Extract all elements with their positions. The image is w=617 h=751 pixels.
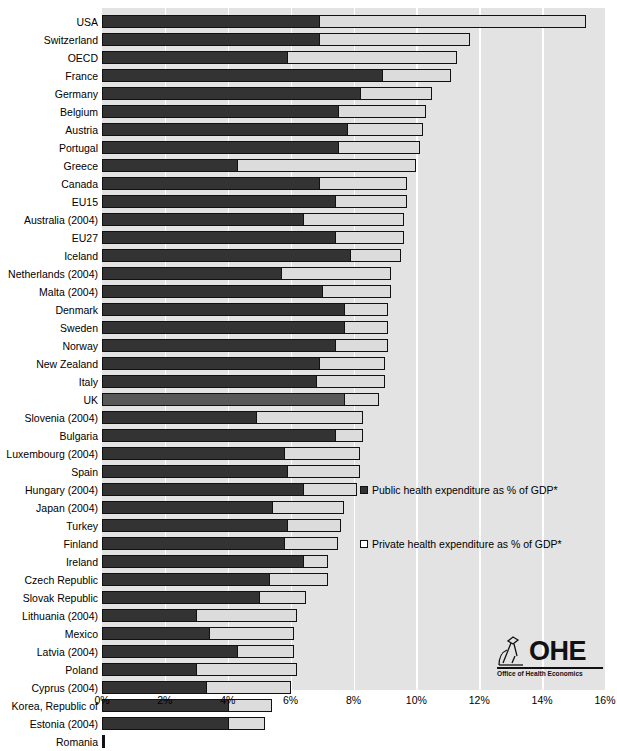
stacked-bar xyxy=(102,357,385,370)
category-label: Estonia (2004) xyxy=(0,715,98,733)
bar-segment-public xyxy=(102,285,322,298)
bar-segment-private xyxy=(319,33,470,46)
bar-segment-public xyxy=(102,249,350,262)
bar-segment-private xyxy=(272,501,344,514)
bar-segment-private xyxy=(303,213,404,226)
category-label: Portugal xyxy=(0,139,98,157)
bar-segment-private xyxy=(284,537,337,550)
logo-subtitle: Office of Health Economics xyxy=(497,670,583,677)
bar-segment-public xyxy=(102,69,382,82)
microscope-icon xyxy=(493,634,533,670)
bar-row xyxy=(102,175,605,193)
bar-segment-private xyxy=(322,285,391,298)
stacked-bar xyxy=(102,573,328,586)
stacked-bar xyxy=(102,285,391,298)
stacked-bar xyxy=(102,321,388,334)
x-axis-tick-label: 2% xyxy=(157,694,172,706)
bar-row xyxy=(102,247,605,265)
category-label: EU27 xyxy=(0,229,98,247)
bar-segment-public xyxy=(102,483,303,496)
stacked-bar xyxy=(102,159,416,172)
private-swatch-icon xyxy=(360,540,368,548)
bar-segment-public xyxy=(102,375,316,388)
category-label: Lithuania (2004) xyxy=(0,607,98,625)
bar-segment-private xyxy=(228,717,266,730)
stacked-bar xyxy=(102,213,404,226)
bar-segment-private xyxy=(319,177,407,190)
x-axis: 0%2%4%6%8%10%12%14%16% xyxy=(0,694,617,714)
stacked-bar xyxy=(102,447,360,460)
bar-segment-private xyxy=(316,375,385,388)
legend-label-public: Public health expenditure as % of GDP* xyxy=(372,484,558,496)
bar-segment-public xyxy=(102,357,319,370)
category-label: OECD xyxy=(0,49,98,67)
stacked-bar xyxy=(102,231,404,244)
stacked-bar xyxy=(102,393,379,406)
bar-segment-private xyxy=(335,429,363,442)
bar-segment-private xyxy=(281,267,391,280)
stacked-bar xyxy=(102,663,297,676)
stacked-bar xyxy=(102,627,294,640)
category-label: Japan (2004) xyxy=(0,499,98,517)
bar-row xyxy=(102,571,605,589)
bar-segment-public xyxy=(102,213,303,226)
bar-row xyxy=(102,733,605,751)
x-axis-tick-label: 10% xyxy=(406,694,427,706)
bar-segment-public xyxy=(102,537,284,550)
bar-row xyxy=(102,391,605,409)
stacked-bar xyxy=(102,15,586,28)
category-label: UK xyxy=(0,391,98,409)
category-label: Germany xyxy=(0,85,98,103)
bar-segment-public xyxy=(102,465,287,478)
category-label: Luxembourg (2004) xyxy=(0,445,98,463)
bar-segment-private xyxy=(259,591,306,604)
category-label: Iceland xyxy=(0,247,98,265)
category-label: Norway xyxy=(0,337,98,355)
category-label: Italy xyxy=(0,373,98,391)
category-label: Denmark xyxy=(0,301,98,319)
bar-row xyxy=(102,31,605,49)
bar-row xyxy=(102,517,605,535)
stacked-bar xyxy=(102,591,306,604)
bar-segment-private xyxy=(338,141,420,154)
bar-segment-public xyxy=(102,339,335,352)
bar-segment-public xyxy=(102,159,237,172)
bar-row xyxy=(102,337,605,355)
bar-row xyxy=(102,463,605,481)
category-label: Australia (2004) xyxy=(0,211,98,229)
x-axis-tick-label: 0% xyxy=(94,694,109,706)
stacked-bar xyxy=(102,141,420,154)
category-label: Slovak Republic xyxy=(0,589,98,607)
bar-segment-public xyxy=(102,501,272,514)
bar-segment-private xyxy=(319,357,385,370)
bar-row xyxy=(102,193,605,211)
category-label: Slovenia (2004) xyxy=(0,409,98,427)
public-swatch-icon xyxy=(360,486,368,494)
category-label: Mexico xyxy=(0,625,98,643)
bar-segment-public xyxy=(102,51,287,64)
bar-segment-private xyxy=(209,627,294,640)
bar-segment-public xyxy=(102,123,347,136)
bar-segment-public xyxy=(102,645,237,658)
bar-segment-private xyxy=(344,393,379,406)
bar-segment-public xyxy=(102,393,344,406)
category-label: Latvia (2004) xyxy=(0,643,98,661)
category-label: Turkey xyxy=(0,517,98,535)
bar-segment-public xyxy=(102,717,228,730)
stacked-bar xyxy=(102,609,297,622)
bar-row xyxy=(102,211,605,229)
category-label: Czech Republic xyxy=(0,571,98,589)
stacked-bar xyxy=(102,87,432,100)
bar-segment-private xyxy=(335,339,388,352)
category-label: New Zealand xyxy=(0,355,98,373)
bar-segment-public xyxy=(102,177,319,190)
bar-segment-private xyxy=(256,411,363,424)
bar-segment-public xyxy=(102,105,338,118)
stacked-bar xyxy=(102,303,388,316)
bar-row xyxy=(102,427,605,445)
bar-row xyxy=(102,121,605,139)
stacked-bar xyxy=(102,267,391,280)
category-label: Canada xyxy=(0,175,98,193)
stacked-bar xyxy=(102,105,426,118)
bar-row xyxy=(102,553,605,571)
